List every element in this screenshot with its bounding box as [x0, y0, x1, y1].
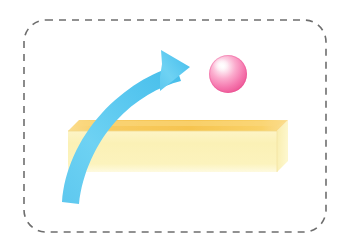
illustration-stage: A light blue curved arrow arcs upward fr…	[0, 0, 350, 251]
scene-illustration	[0, 0, 350, 251]
arrow-head	[160, 50, 190, 91]
pink-sphere	[209, 55, 247, 93]
